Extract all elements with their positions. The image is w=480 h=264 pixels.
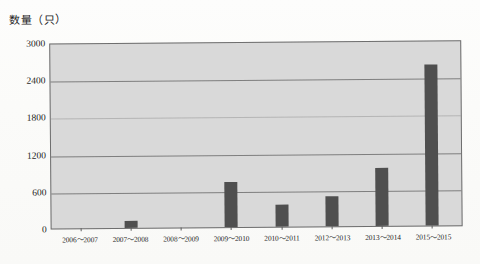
bar-series bbox=[50, 41, 461, 228]
bar bbox=[225, 182, 238, 227]
x-tickmark bbox=[80, 228, 81, 231]
bar-slot bbox=[104, 44, 156, 228]
bar bbox=[275, 204, 288, 226]
x-tick-label: 2013～2014 bbox=[358, 231, 409, 242]
scan-tilt-wrapper: 数量（只） 06001200180024003000 2006～20072007… bbox=[0, 0, 480, 264]
y-tick-label: 600 bbox=[2, 187, 46, 197]
bar-slot bbox=[406, 41, 458, 225]
x-tick-label: 2012～2013 bbox=[307, 231, 358, 242]
x-tickmark bbox=[131, 228, 132, 231]
x-tickmark bbox=[432, 225, 433, 228]
x-tickmark bbox=[332, 226, 333, 229]
x-tickmark bbox=[382, 226, 383, 229]
bar-slot bbox=[54, 44, 106, 228]
bar-slot bbox=[305, 42, 357, 226]
x-tick-label: 2008～2009 bbox=[156, 232, 207, 243]
x-tick-label: 2007～2008 bbox=[105, 233, 156, 244]
y-tick-label: 1800 bbox=[2, 113, 46, 123]
x-tickmark bbox=[281, 227, 282, 230]
chart-page: 数量（只） 06001200180024003000 2006～20072007… bbox=[0, 0, 480, 264]
bar-slot bbox=[356, 42, 408, 226]
x-tick-label: 2009～2010 bbox=[206, 232, 257, 243]
bar-slot bbox=[205, 43, 257, 227]
x-axis-tick-labels: 2006～20072007～20082008～20092009～20102010… bbox=[51, 230, 463, 244]
x-tickmark bbox=[231, 227, 232, 230]
x-tickmark bbox=[181, 227, 182, 230]
x-tick-label: 2010～2011 bbox=[257, 231, 308, 242]
bar bbox=[425, 64, 439, 225]
y-tick-label: 0 bbox=[3, 225, 47, 235]
y-tick-label: 1200 bbox=[2, 150, 46, 160]
bar-slot bbox=[255, 42, 307, 226]
x-tick-label: 2015～2015 bbox=[408, 230, 459, 241]
plot-area bbox=[49, 40, 462, 229]
bar bbox=[375, 168, 388, 226]
y-tick-label: 3000 bbox=[1, 39, 45, 49]
y-tick-label: 2400 bbox=[1, 76, 45, 86]
bar bbox=[325, 196, 338, 226]
x-tick-label: 2006～2007 bbox=[55, 233, 106, 244]
bar-slot bbox=[155, 43, 207, 227]
y-axis-tick-labels: 06001200180024003000 bbox=[0, 44, 47, 230]
y-axis-title: 数量（只） bbox=[9, 10, 67, 26]
